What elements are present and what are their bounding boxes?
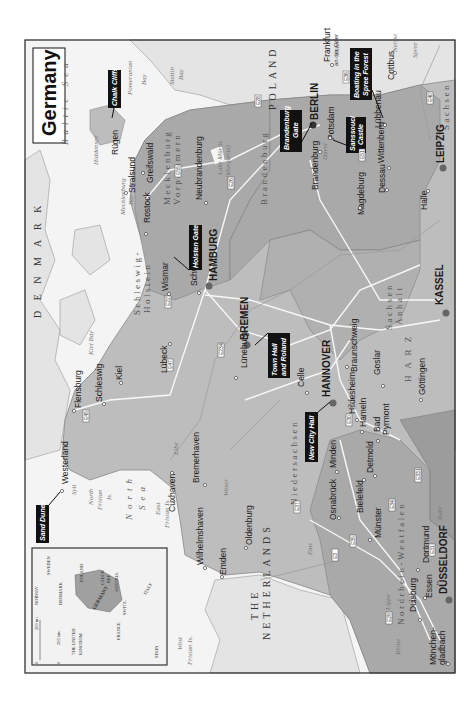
city-label-cottbus: Cottbus xyxy=(386,51,396,80)
city-label-rostock: Rostock xyxy=(142,192,152,223)
water-label-north-frisian-b: Frisian xyxy=(96,489,104,511)
callout-label-boating: Boating in the xyxy=(353,51,361,98)
city-label-schleswig: Schleswig xyxy=(94,363,104,402)
water-label-kiel-bay: Kiel Bay xyxy=(87,330,95,356)
city-label-hamburg: HAMBURG xyxy=(208,229,219,281)
svg-text:E22: E22 xyxy=(165,297,171,306)
svg-text:E36: E36 xyxy=(343,72,349,81)
city-dot-hamburg xyxy=(206,283,213,290)
city-dot-leipzig xyxy=(440,165,447,172)
callout-label-chalk-cliffs: Chalk Cliffs xyxy=(111,68,118,106)
country-label-netherlands: NETHERLANDS xyxy=(261,523,272,640)
map-title: Germany xyxy=(38,48,60,136)
water-label-north-frisian-a: North xyxy=(87,488,95,506)
city-label-westerland: Westerland xyxy=(60,441,70,484)
city-label-cuxhaven: Cuxhaven xyxy=(167,473,177,512)
city-label-celle: Celle xyxy=(296,367,306,387)
city-label-kiel: Kiel xyxy=(114,366,124,380)
callout-label-spree-forest: Spree Forest xyxy=(362,53,370,96)
region-label-schleswig: Schleswig- xyxy=(132,250,142,315)
callout-label-sanssouci: Sanssouci xyxy=(349,115,356,151)
city-label-essen: Essen xyxy=(424,574,434,598)
city-label-dessau: Dessau xyxy=(377,164,387,193)
callout-label-castle: Castle xyxy=(357,124,364,145)
water-label-north: North xyxy=(124,474,134,521)
callout-label-holsten-gate: Holsten Gate xyxy=(192,225,199,268)
inset-label-austria: AUSTRIA xyxy=(114,572,119,592)
city-label-bielefeld: Bielefeld xyxy=(355,480,365,513)
water-label-pomeranian: Pomeranian xyxy=(126,60,134,96)
city-label-stralsund: Stralsund xyxy=(127,157,137,193)
svg-text:E55: E55 xyxy=(175,166,181,175)
water-label-sylt: Sylt xyxy=(70,483,78,495)
callout-label-gate: Gate xyxy=(292,122,299,138)
region-label-niedersachsen: Niedersachsen xyxy=(289,420,299,505)
water-label-hiddensee: Hiddensee xyxy=(92,135,100,166)
city-label-hannover: HANNOVER xyxy=(321,339,332,397)
city-label-pyrmont: Pyrmont xyxy=(381,403,391,435)
water-label-mecklenburg: Mecklenburg xyxy=(119,178,127,216)
inset-label-france: FRANCE xyxy=(116,622,121,640)
svg-text:E31: E31 xyxy=(429,545,435,554)
city-dot-hannover xyxy=(330,400,337,407)
region-label-nordrhein-westfalen: Nordrhein-Westfalen xyxy=(396,502,406,625)
city-label-gladbach: gladbach xyxy=(437,630,447,665)
water-label-stettin-bay: Bay xyxy=(177,68,185,80)
inset-label-spain: SPAIN xyxy=(154,645,159,658)
inset-label-denmark: DENMARK xyxy=(58,581,63,605)
svg-text:E331: E331 xyxy=(415,468,421,480)
svg-text:E26: E26 xyxy=(228,178,234,187)
water-label-west: West xyxy=(176,636,184,650)
river-label-rhine: Rhine xyxy=(394,639,402,656)
svg-text:E51: E51 xyxy=(359,150,365,159)
callout-label-sand-dunes: Sand Dunes xyxy=(39,500,46,541)
city-label-munster: Münster xyxy=(373,507,383,538)
inset-label-rep: REP. xyxy=(106,574,111,583)
country-label-poland: POLAND xyxy=(267,45,278,110)
region-label-harz: H A R Z xyxy=(403,334,413,382)
water-label-baltic-sea: Baltic Sea xyxy=(60,58,70,145)
inset-label-sweden: SWEDEN xyxy=(46,556,51,575)
river-label-havel: Havel xyxy=(321,143,329,161)
inset-locator-map: 0 200 mi 0 200 km NORWAY SWEDEN DENMARK … xyxy=(32,548,167,665)
water-label-east: East xyxy=(154,502,162,517)
region-label-brandenburg: Brandenburg xyxy=(259,131,269,205)
city-label-brandenburg: Brandenburg xyxy=(310,141,320,190)
city-label-neubrandenburg: Neubrandenburg xyxy=(194,136,204,200)
river-label-lippe: Lippe xyxy=(384,594,392,611)
callout-label-brandenburg: Brandenburg xyxy=(283,105,291,150)
city-label-an-der-oder: an der Oder xyxy=(333,34,339,66)
river-label-neisse: Neisse xyxy=(391,34,399,53)
city-label-duisburg: Duisburg xyxy=(408,578,418,612)
city-label-halle: Halle xyxy=(419,190,429,210)
svg-text:E3: E3 xyxy=(332,553,338,559)
city-label-oldenburg: Oldenburg xyxy=(244,505,254,545)
city-label-berlin: BERLIN xyxy=(309,83,320,120)
city-label-flensburg: Flensburg xyxy=(73,370,83,408)
city-label-potsdam: Potsdam xyxy=(326,106,336,140)
water-label-stettin: Stettin xyxy=(168,67,176,85)
svg-text:200 mi: 200 mi xyxy=(34,617,39,630)
city-label-kassel: KASSEL xyxy=(434,264,445,305)
region-label-mecklenburg: Mecklenburg xyxy=(162,130,172,205)
city-dot-kassel xyxy=(443,310,450,317)
water-label-north-frisian-c: Is. xyxy=(105,493,113,501)
svg-text:E28: E28 xyxy=(255,96,261,105)
callout-label-and-roland: and Roland xyxy=(280,337,287,376)
svg-text:E29: E29 xyxy=(386,613,392,622)
water-label-margaritz: (Margaritz) xyxy=(224,145,232,178)
inset-label-poland: POLAND xyxy=(79,563,84,582)
city-label-gottingen: Göttingen xyxy=(417,358,427,395)
inset-label-czech: CZECH xyxy=(100,569,105,585)
city-label-hameln: Hameln xyxy=(358,397,368,427)
water-label-west-frisian: Frisian Is. xyxy=(186,636,194,666)
svg-text:E34: E34 xyxy=(389,500,395,509)
svg-text:E45: E45 xyxy=(83,411,89,420)
region-label-holstein: Holstein xyxy=(142,263,152,314)
svg-text:200 km: 200 km xyxy=(56,631,61,645)
city-label-dusseldorf: DÜSSELDORF xyxy=(437,525,449,594)
city-label-detmold: Detmold xyxy=(365,441,375,473)
city-label-bremerhaven: Bremerhaven xyxy=(191,432,201,483)
city-label-frankfurt: Frankfurt xyxy=(322,27,332,62)
svg-text:E30: E30 xyxy=(346,415,352,424)
